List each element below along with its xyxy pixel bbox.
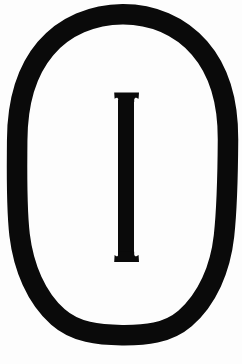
letter-i-stem <box>118 100 134 258</box>
symbol-graphic <box>0 0 242 364</box>
symbol-canvas: Letter I inside an oval <box>0 0 242 364</box>
